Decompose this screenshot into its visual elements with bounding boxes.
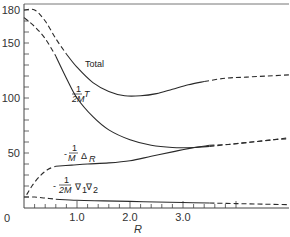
curve-dashed_tail (210, 203, 290, 205)
x-axis-title: R (134, 223, 142, 235)
grad-symbol-2: ∇ (85, 182, 93, 192)
grad-subscript-2: 2 (93, 185, 98, 195)
delta-denominator: M (68, 153, 76, 163)
y-tick-label: 50 (8, 147, 20, 159)
x-tick-label: 3.0 (175, 211, 190, 223)
curve-dashed_tail (204, 75, 289, 82)
series-3 (24, 197, 289, 205)
y-tick-label: 100 (2, 92, 20, 104)
label-gradient: - 1 2M ∇ 1 ∇ 2 (53, 175, 98, 195)
curve-dashed (24, 18, 56, 57)
label-kinetic: 1 2M T (71, 84, 91, 104)
delta-minus: - (64, 149, 67, 159)
grad-minus: - (53, 181, 56, 191)
y-tick-label: 150 (2, 37, 20, 49)
series-1 (24, 18, 289, 148)
chart: 50100150180 1.02.03.0 0 R Total 1 2M T -… (0, 0, 289, 237)
y-tick-label: 180 (2, 4, 20, 16)
grad-denominator: 2M (58, 185, 72, 195)
grad-symbol-1: ∇ (74, 182, 82, 192)
kinetic-superscript: T (84, 89, 91, 99)
curve-solid (56, 199, 210, 203)
kinetic-numerator: 1 (76, 84, 81, 94)
label-delta: - 1 M Δ R (64, 143, 96, 164)
label-total: Total (85, 59, 104, 69)
curve-dashed (27, 166, 56, 195)
x-tick-label: 1.0 (69, 211, 84, 223)
delta-numerator: 1 (72, 143, 77, 153)
curve-solid (56, 145, 210, 166)
delta-subscript: R (89, 154, 96, 164)
x-tick-label: 2.0 (122, 211, 137, 223)
curve-dashed (24, 9, 66, 54)
origin-label: 0 (4, 212, 10, 224)
kinetic-denominator: 2M (71, 94, 85, 104)
curve-dashed_tail (210, 138, 290, 146)
curve-dashed (24, 197, 56, 199)
x-axis-ticks: 1.02.03.0 (35, 201, 236, 223)
y-axis-ticks: 50100150180 (2, 4, 29, 197)
grad-numerator: 1 (64, 175, 69, 185)
delta-symbol: Δ (81, 151, 87, 161)
series-0 (24, 9, 289, 96)
